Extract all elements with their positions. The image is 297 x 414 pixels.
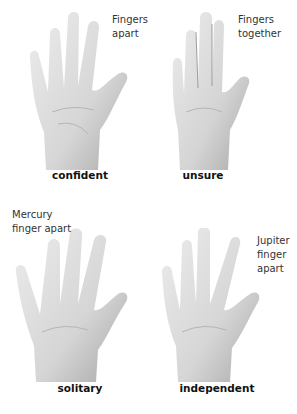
note-line: Fingers bbox=[112, 13, 148, 27]
note-independent: Jupiter finger apart bbox=[257, 234, 290, 276]
note-line: finger bbox=[257, 248, 290, 262]
label-independent: independent bbox=[172, 382, 262, 394]
note-line: Fingers bbox=[238, 13, 281, 27]
label-unsure: unsure bbox=[168, 169, 238, 181]
note-unsure: Fingers together bbox=[238, 13, 281, 41]
note-line: together bbox=[238, 27, 281, 41]
panel-unsure: Fingers together unsure bbox=[150, 0, 297, 200]
label-confident: confident bbox=[40, 169, 120, 181]
note-line: finger apart bbox=[12, 222, 71, 236]
panel-confident: Fingers apart confident bbox=[0, 0, 150, 200]
hand-mercury-finger-apart-image bbox=[14, 228, 132, 382]
panel-independent: Jupiter finger apart independent bbox=[150, 200, 297, 414]
panel-solitary: Mercury finger apart solitary bbox=[0, 200, 150, 414]
note-line: apart bbox=[257, 262, 290, 276]
note-line: Jupiter bbox=[257, 234, 290, 248]
note-solitary: Mercury finger apart bbox=[12, 208, 71, 236]
note-line: Mercury bbox=[12, 208, 71, 222]
note-confident: Fingers apart bbox=[112, 13, 148, 41]
hand-jupiter-finger-apart-image bbox=[160, 228, 270, 382]
label-solitary: solitary bbox=[45, 382, 115, 394]
note-line: apart bbox=[112, 27, 148, 41]
